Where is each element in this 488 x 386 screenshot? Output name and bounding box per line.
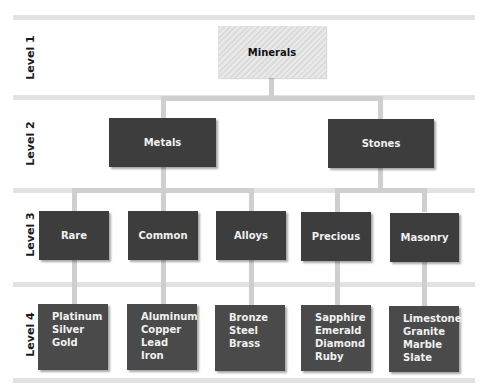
- level-separator: [13, 282, 475, 287]
- node-precious: Precious: [301, 212, 371, 261]
- node-metals: Metals: [109, 118, 216, 167]
- node-label: Metals: [144, 137, 182, 148]
- item: Bronze: [229, 311, 285, 324]
- item: Copper: [141, 323, 197, 336]
- node-label: Masonry: [400, 232, 448, 243]
- node-alloys: Alloys: [216, 211, 286, 260]
- connector: [161, 260, 166, 305]
- item: Brass: [229, 337, 285, 350]
- node-masonry-items: Limestone Granite Marble Slate: [389, 306, 459, 372]
- item: Ruby: [315, 350, 371, 363]
- node-label: Alloys: [234, 230, 268, 241]
- node-label: Precious: [312, 231, 360, 242]
- connector: [249, 188, 254, 211]
- connector: [249, 260, 254, 305]
- connector: [422, 188, 427, 212]
- level-label-4: Level 4: [24, 300, 37, 370]
- connector: [335, 188, 340, 212]
- item: Lead: [141, 336, 197, 349]
- node-label: Stones: [362, 138, 401, 149]
- node-stones: Stones: [328, 119, 434, 168]
- connector: [335, 261, 340, 305]
- connector: [72, 188, 77, 211]
- connector: [335, 188, 427, 193]
- level-label-1: Level 1: [24, 23, 37, 93]
- connector: [422, 262, 427, 306]
- item: Slate: [403, 351, 459, 364]
- connector: [161, 96, 166, 118]
- level-label-3: Level 3: [24, 200, 37, 270]
- node-common-items: Aluminum Copper Lead Iron: [127, 304, 197, 370]
- node-masonry: Masonry: [390, 213, 459, 262]
- item: Limestone: [403, 312, 459, 325]
- node-alloys-items: Bronze Steel Brass: [215, 305, 285, 371]
- node-label: Common: [138, 230, 187, 241]
- item: Silver: [52, 323, 108, 336]
- item: Aluminum: [141, 310, 197, 323]
- connector: [72, 260, 77, 305]
- item: Diamond: [315, 337, 371, 350]
- level-label-2: Level 2: [24, 109, 37, 179]
- item: Marble: [403, 338, 459, 351]
- connector: [161, 188, 166, 211]
- node-rare-items: Platinum Silver Gold: [38, 304, 108, 370]
- level-separator: [13, 15, 475, 20]
- node-common: Common: [128, 211, 198, 260]
- node-precious-items: Sapphire Emerald Diamond Ruby: [301, 305, 371, 371]
- level-separator: [13, 378, 475, 383]
- connector: [269, 78, 274, 98]
- item: Sapphire: [315, 311, 371, 324]
- connector: [161, 96, 383, 101]
- connector: [161, 167, 166, 189]
- item: Granite: [403, 325, 459, 338]
- node-label: Minerals: [248, 47, 296, 58]
- item: Steel: [229, 324, 285, 337]
- connector: [378, 96, 383, 119]
- node-label: Rare: [61, 230, 87, 241]
- item: Emerald: [315, 324, 371, 337]
- item: Gold: [52, 336, 108, 349]
- item: Platinum: [52, 310, 108, 323]
- node-minerals: Minerals: [218, 26, 326, 78]
- item: Iron: [141, 349, 197, 362]
- node-rare: Rare: [39, 211, 109, 260]
- connector: [378, 168, 383, 189]
